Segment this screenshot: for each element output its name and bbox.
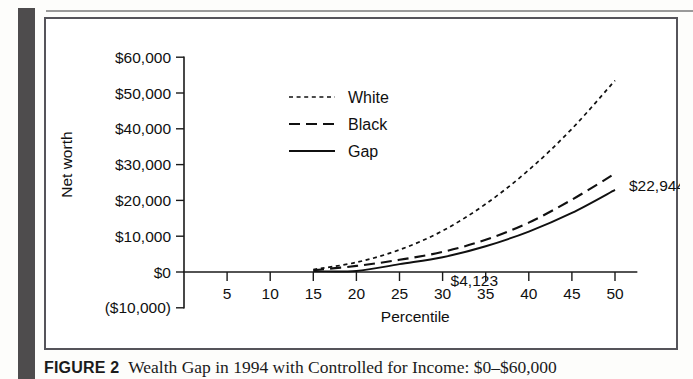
y-tick-label: $40,000 bbox=[115, 120, 171, 137]
y-tick-label: $30,000 bbox=[115, 156, 171, 173]
x-tick-label: 50 bbox=[606, 285, 624, 302]
y-tick-label: $20,000 bbox=[115, 192, 171, 209]
y-tick-label: ($10,000) bbox=[105, 299, 171, 316]
y-axis-tick-labels: ($10,000)$0$10,000$20,000$30,000$40,000$… bbox=[105, 49, 172, 317]
data-series-group bbox=[313, 80, 615, 271]
series-line-black bbox=[313, 174, 615, 271]
chart-plot-area: ($10,000)$0$10,000$20,000$30,000$40,000$… bbox=[46, 19, 680, 352]
y-tick-label: $60,000 bbox=[115, 49, 171, 66]
figure-page: ($10,000)$0$10,000$20,000$30,000$40,000$… bbox=[0, 0, 693, 379]
y-axis-ticks bbox=[176, 57, 184, 308]
x-axis-ticks bbox=[227, 272, 615, 281]
x-tick-label: 20 bbox=[348, 285, 366, 302]
x-tick-label: 45 bbox=[563, 285, 580, 302]
x-axis-tick-labels: 5101520253035404550 bbox=[223, 285, 624, 302]
chart-svg: ($10,000)$0$10,000$20,000$30,000$40,000$… bbox=[46, 19, 680, 352]
series-line-white bbox=[313, 80, 615, 269]
y-tick-label: $0 bbox=[154, 264, 172, 281]
x-tick-label: 5 bbox=[223, 285, 232, 302]
legend-label-gap: Gap bbox=[348, 143, 378, 160]
chart-legend: WhiteBlackGap bbox=[289, 89, 389, 160]
figure-caption-label: FIGURE 2 bbox=[44, 359, 119, 376]
series-line-gap bbox=[313, 190, 615, 272]
y-axis-title: Net worth bbox=[58, 131, 75, 197]
x-axis-title: Percentile bbox=[381, 308, 450, 325]
figure-caption: FIGURE 2 Wealth Gap in 1994 with Control… bbox=[44, 357, 693, 378]
x-tick-label: 40 bbox=[520, 285, 538, 302]
y-tick-label: $10,000 bbox=[115, 228, 171, 245]
top-rule-divider bbox=[46, 10, 693, 12]
figure-box: ($10,000)$0$10,000$20,000$30,000$40,000$… bbox=[44, 17, 678, 350]
annotation-label: $22,944 bbox=[629, 177, 680, 194]
legend-label-white: White bbox=[348, 89, 389, 106]
x-tick-label: 30 bbox=[434, 285, 452, 302]
x-tick-label: 10 bbox=[262, 285, 280, 302]
y-tick-label: $50,000 bbox=[115, 85, 171, 102]
annotation-label: $4,123 bbox=[451, 272, 498, 289]
x-tick-label: 15 bbox=[305, 285, 322, 302]
legend-label-black: Black bbox=[348, 116, 388, 133]
page-edge-scan-bar bbox=[18, 8, 35, 379]
x-tick-label: 25 bbox=[391, 285, 408, 302]
figure-caption-text: Wealth Gap in 1994 with Controlled for I… bbox=[128, 357, 557, 377]
